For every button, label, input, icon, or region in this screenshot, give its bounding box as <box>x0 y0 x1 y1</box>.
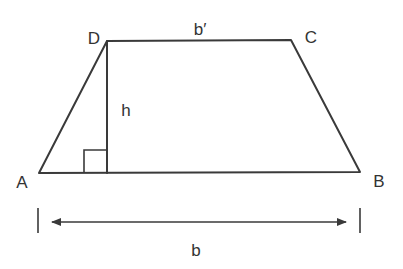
trapezoid-outline <box>39 40 360 173</box>
trapezoid-diagram <box>0 0 403 269</box>
vertex-label-d: D <box>88 30 100 47</box>
vertex-label-c: C <box>305 29 317 46</box>
right-angle-icon <box>84 150 107 173</box>
vertex-label-a: A <box>16 174 27 191</box>
bottom-base-label: b <box>191 242 200 259</box>
height-label: h <box>121 102 130 119</box>
top-base-label: b′ <box>194 21 207 38</box>
vertex-label-b: B <box>373 173 384 190</box>
